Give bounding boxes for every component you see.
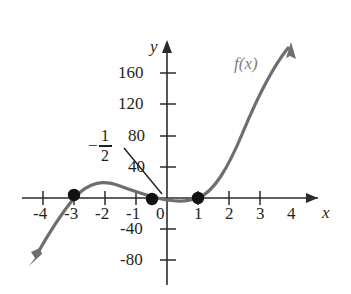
root-point-minus-three: [68, 189, 80, 201]
x-tick-label-zero: 0: [156, 205, 165, 222]
y-tick-label-minus-80: -80: [120, 251, 143, 268]
x-tick-label-minus-4: -4: [33, 205, 47, 222]
y-tick-marks: [160, 73, 176, 260]
x-tick-label-minus-3: -3: [64, 205, 78, 222]
y-tick-label-120: 120: [118, 95, 144, 112]
x-tick-label-three: 3: [256, 205, 265, 222]
x-tick-label-four: 4: [287, 205, 296, 222]
x-axis-label: x: [322, 204, 330, 221]
y-tick-label-160: 160: [118, 64, 144, 81]
function-label: f(x): [234, 55, 258, 72]
y-tick-label-80: 80: [128, 127, 145, 144]
graph-figure: y x 160 120 80 40 -40 -80 -4 -3 -2 -1 0 …: [0, 0, 351, 294]
curve-left-arrow-icon: [29, 248, 42, 266]
fraction-denominator: 2: [101, 148, 109, 164]
x-axis-arrow-icon: [306, 193, 318, 203]
fraction-annotation-minus-one-half: − 1 2: [88, 128, 112, 164]
root-point-one: [192, 192, 204, 204]
y-axis-arrow-icon: [162, 40, 172, 53]
graph-canvas: [0, 0, 351, 294]
fraction-stack: 1 2: [99, 128, 112, 164]
x-tick-label-one: 1: [194, 205, 203, 222]
x-tick-label-minus-1: -1: [126, 205, 140, 222]
fraction-minus-sign: −: [88, 137, 98, 154]
fraction-numerator: 1: [101, 128, 109, 144]
x-tick-label-minus-2: -2: [95, 205, 109, 222]
x-tick-label-two: 2: [225, 205, 234, 222]
y-axis-label: y: [150, 38, 158, 55]
y-tick-label-40: 40: [128, 158, 145, 175]
function-curve: [36, 48, 288, 256]
